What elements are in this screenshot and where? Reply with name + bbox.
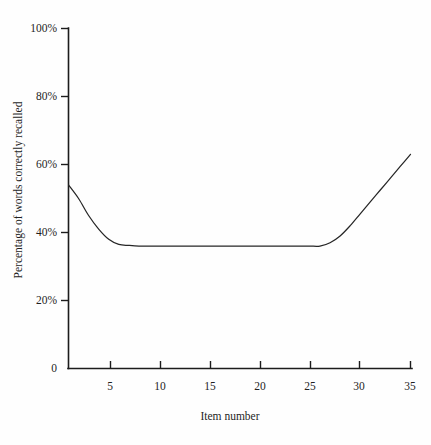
x-tick-label-10: 10 (154, 380, 166, 392)
x-tick-label-5: 5 (107, 380, 113, 392)
y-tick-label-60: 60% (36, 158, 58, 170)
y-axis-title: Percentage of words correctly recalled (12, 101, 25, 278)
x-tick-label-35: 35 (404, 380, 416, 392)
y-tick-label-100: 100% (30, 22, 57, 34)
y-tick-label-0: 0 (51, 362, 57, 374)
serial-position-curve-chart: 100% 80% 60% 40% 20% 0 5 10 15 20 25 30 … (0, 0, 431, 445)
x-tick-label-30: 30 (353, 380, 365, 392)
x-axis-title: Item number (200, 410, 259, 422)
y-tick-label-80: 80% (36, 90, 58, 102)
y-tick-label-40: 40% (36, 226, 58, 238)
y-tick-label-20: 20% (36, 294, 58, 306)
x-tick-label-25: 25 (304, 380, 316, 392)
chart-background (0, 0, 431, 445)
chart-page: 100% 80% 60% 40% 20% 0 5 10 15 20 25 30 … (0, 0, 431, 445)
x-tick-label-20: 20 (254, 380, 266, 392)
x-tick-label-15: 15 (204, 380, 216, 392)
